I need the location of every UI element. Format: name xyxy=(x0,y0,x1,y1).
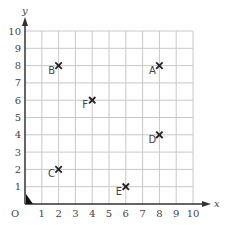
point-label: B xyxy=(48,65,55,76)
x-tick-label: 6 xyxy=(123,208,129,219)
y-axis-label: y xyxy=(21,5,28,16)
y-tick-label: 8 xyxy=(15,60,21,71)
x-tick-label: 5 xyxy=(106,208,112,219)
y-tick-label: 1 xyxy=(15,181,21,192)
point-b: B xyxy=(48,62,62,75)
point-f: F xyxy=(82,97,95,110)
point-label: D xyxy=(149,134,157,145)
y-tick-label: 7 xyxy=(15,77,21,88)
x-tick-label: 7 xyxy=(139,208,145,219)
point-label: C xyxy=(48,168,55,179)
point-e: E xyxy=(116,184,129,197)
x-tick-label: 10 xyxy=(187,208,200,219)
y-tick-label: 5 xyxy=(15,112,21,123)
point-a: A xyxy=(149,62,163,75)
point-label: A xyxy=(149,65,156,76)
x-axis-label: x xyxy=(214,198,220,209)
y-tick-label: 3 xyxy=(15,147,21,158)
x-tick-label: 2 xyxy=(55,208,61,219)
x-tick-label: 3 xyxy=(72,208,78,219)
point-d: D xyxy=(149,132,163,145)
y-tick-label: 10 xyxy=(8,26,21,37)
y-tick-label: 9 xyxy=(15,43,21,54)
x-tick-label: 4 xyxy=(89,208,95,219)
y-tick-label: 6 xyxy=(15,95,21,106)
y-tick-label: 2 xyxy=(15,164,21,175)
tick-labels: 1234567891012345678910 xyxy=(8,26,199,220)
x-tick-label: 9 xyxy=(173,208,179,219)
x-tick-label: 8 xyxy=(156,208,162,219)
y-axis-arrow-icon xyxy=(22,17,28,26)
point-c: C xyxy=(48,166,62,179)
x-tick-label: 1 xyxy=(39,208,45,219)
y-tick-label: 4 xyxy=(15,129,21,140)
right-angle-marker-icon xyxy=(26,194,33,204)
point-label: E xyxy=(116,186,122,197)
x-axis-arrow-icon xyxy=(202,201,211,207)
point-label: F xyxy=(82,99,88,110)
coordinate-grid-chart: xyO 1234567891012345678910 ABCDEF xyxy=(0,0,226,225)
origin-label: O xyxy=(11,208,19,219)
